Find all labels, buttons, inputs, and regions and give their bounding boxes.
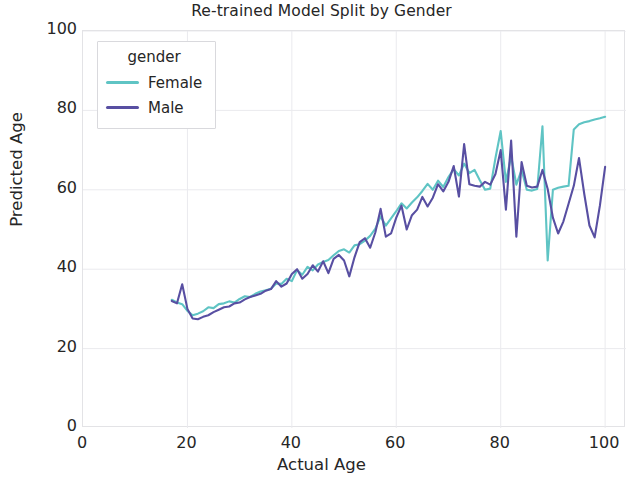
y-axis-label: Predicted Age xyxy=(7,80,26,260)
legend-title: gender xyxy=(106,47,202,70)
x-tick-label: 0 xyxy=(52,433,112,452)
legend-label: Female xyxy=(148,74,202,92)
y-tick-label: 20 xyxy=(17,337,77,356)
y-tick-label: 60 xyxy=(17,178,77,197)
x-tick-label: 20 xyxy=(156,433,216,452)
legend-entries: FemaleMale xyxy=(106,70,202,120)
y-tick-label: 80 xyxy=(17,98,77,117)
x-tick-label: 40 xyxy=(261,433,321,452)
legend-item-female[interactable]: Female xyxy=(106,70,202,95)
legend-item-male[interactable]: Male xyxy=(106,95,202,120)
series-line-female xyxy=(172,117,605,316)
chart-figure: Re-trained Model Split by Gender 0204060… xyxy=(0,0,643,483)
y-tick-label: 40 xyxy=(17,257,77,276)
series-lines xyxy=(172,117,605,319)
x-tick-label: 100 xyxy=(574,433,634,452)
legend: gender FemaleMale xyxy=(97,41,216,129)
x-tick-label: 80 xyxy=(470,433,530,452)
y-tick-label: 100 xyxy=(17,19,77,38)
legend-label: Male xyxy=(148,99,184,117)
chart-title: Re-trained Model Split by Gender xyxy=(0,2,643,20)
legend-swatch-female xyxy=(106,81,139,84)
legend-swatch-male xyxy=(106,106,139,109)
x-tick-label: 60 xyxy=(365,433,425,452)
x-axis-label: Actual Age xyxy=(0,455,643,474)
series-line-male xyxy=(172,141,605,320)
